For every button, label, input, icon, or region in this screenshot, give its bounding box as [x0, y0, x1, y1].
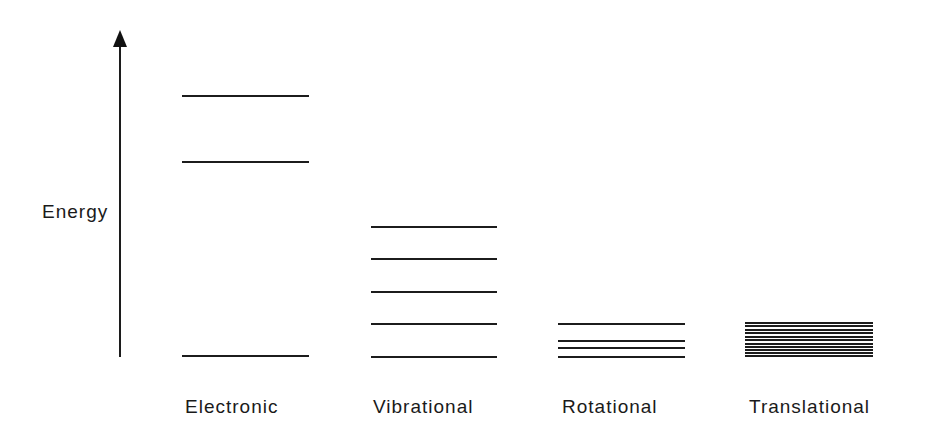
energy-level-line [745, 343, 873, 345]
energy-level-line [745, 332, 873, 334]
energy-level-line [182, 161, 309, 163]
energy-level-line [745, 355, 873, 357]
energy-level-line [745, 322, 873, 324]
column-label-rotational: Rotational [562, 397, 658, 416]
energy-level-line [182, 355, 309, 357]
column-label-electronic: Electronic [185, 397, 278, 416]
energy-level-line [558, 340, 685, 342]
energy-level-line [745, 352, 873, 354]
energy-level-line [371, 258, 497, 260]
energy-level-line [745, 329, 873, 331]
energy-axis [0, 0, 941, 444]
energy-level-line [558, 347, 685, 349]
energy-level-line [371, 356, 497, 358]
column-label-translational: Translational [749, 397, 870, 416]
energy-level-line [371, 226, 497, 228]
energy-level-line [745, 336, 873, 338]
energy-level-line [745, 339, 873, 341]
energy-axis-label: Energy [42, 202, 108, 221]
energy-level-line [182, 95, 309, 97]
column-label-vibrational: Vibrational [373, 397, 473, 416]
energy-level-line [745, 349, 873, 351]
energy-levels-diagram: Energy Electronic Vibrational Rotational… [0, 0, 941, 444]
energy-level-line [745, 346, 873, 348]
energy-level-line [745, 325, 873, 327]
energy-level-line [558, 323, 685, 325]
energy-level-line [371, 323, 497, 325]
energy-level-line [558, 356, 685, 358]
energy-level-line [371, 291, 497, 293]
arrow-up-icon [113, 30, 127, 47]
